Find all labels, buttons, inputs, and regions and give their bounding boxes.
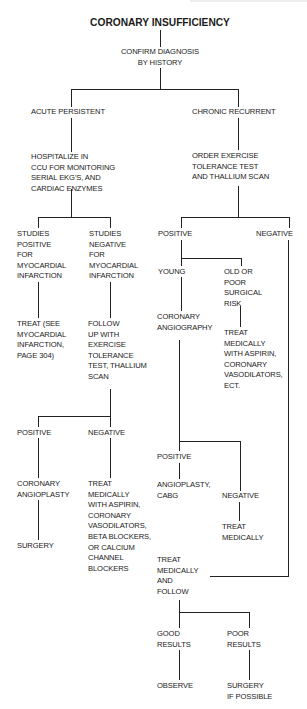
node-hospitalize: HOSPITALIZE IN CCU FOR MONITORING SERIAL… xyxy=(31,152,115,194)
node-young: YOUNG xyxy=(158,267,185,278)
node-acute-persistent: ACUTE PERSISTENT xyxy=(31,107,105,118)
node-angio-negative: NEGATIVE xyxy=(222,491,259,502)
node-chronic-recurrent: CHRONIC RECURRENT xyxy=(192,107,276,118)
node-old-poor-risk: OLD OR POOR SURGICAL RISK xyxy=(224,267,262,309)
node-chronic-positive: POSITIVE xyxy=(158,229,192,240)
node-treat-see-mi: TREAT (SEE MYOCARDIAL INFARCTION, PAGE 3… xyxy=(17,319,66,361)
node-good-results: GOOD RESULTS xyxy=(157,629,191,650)
node-confirm-diagnosis: CONFIRM DIAGNOSIS BY HISTORY xyxy=(108,47,212,68)
node-follow-up: FOLLOW UP WITH EXERCISE TOLERANCE TEST, … xyxy=(88,319,147,383)
flowchart-canvas: CORONARY INSUFFICIENCY CONFIRM DIAGNOSIS… xyxy=(0,0,307,709)
node-studies-negative: STUDIES NEGATIVE FOR MYOCARDIAL INFARCTI… xyxy=(89,229,138,282)
node-angio-positive: POSITIVE xyxy=(157,452,191,463)
node-angioplasty-cabg: ANGIOPLASTY, CABG xyxy=(157,480,211,501)
node-chronic-negative: NEGATIVE xyxy=(256,229,293,240)
node-order-exercise: ORDER EXERCISE TOLERANCE TEST AND THALLI… xyxy=(192,151,269,183)
node-coronary-angioplasty: CORONARY ANGIOPLASTY xyxy=(17,479,70,500)
node-studies-positive: STUDIES POSITIVE FOR MYOCARDIAL INFARCTI… xyxy=(17,229,66,282)
chart-title: CORONARY INSUFFICIENCY xyxy=(0,17,307,28)
node-surgery-if-possible: SURGERY IF POSSIBLE xyxy=(227,681,272,702)
node-treat-medically-follow: TREAT MEDICALLY AND FOLLOW xyxy=(157,555,199,597)
node-treat-medically-ect: TREAT MEDICALLY WITH ASPIRIN, CORONARY V… xyxy=(224,328,283,392)
node-poor-results: POOR RESULTS xyxy=(227,629,261,650)
node-observe: OBSERVE xyxy=(157,681,193,692)
node-acute-negative: NEGATIVE xyxy=(88,428,125,439)
node-acute-positive: POSITIVE xyxy=(17,428,51,439)
node-coronary-angiography: CORONARY ANGIOGRAPHY xyxy=(157,312,212,333)
node-surgery: SURGERY xyxy=(17,541,54,552)
node-treat-medically-beta: TREAT MEDICALLY WITH ASPIRIN, CORONARY V… xyxy=(88,479,151,574)
node-treat-medically: TREAT MEDICALLY xyxy=(222,522,264,543)
